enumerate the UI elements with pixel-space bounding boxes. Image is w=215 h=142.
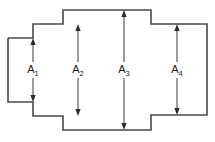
dimension-a1: A1 (22, 38, 44, 102)
dimension-a2-arrow-top (75, 24, 80, 31)
dimension-a1-arrow-top (30, 38, 35, 45)
dimension-a1-arrow-bottom (30, 95, 35, 102)
dimension-a3: A3 (113, 10, 135, 130)
dimension-a4-arrow-top (174, 24, 179, 31)
dimension-a4: A4 (166, 24, 188, 115)
dimension-a4-arrow-bottom (174, 108, 179, 115)
dimension-a3-arrow-bottom (121, 123, 126, 130)
dimension-a2: A2 (67, 24, 89, 116)
stepped-cross-section-diagram: A1 A2 A3 A4 (0, 0, 215, 142)
diagram-container: A1 A2 A3 A4 (0, 0, 215, 142)
dimension-a3-arrow-top (121, 10, 126, 17)
dimension-a2-arrow-bottom (75, 109, 80, 116)
